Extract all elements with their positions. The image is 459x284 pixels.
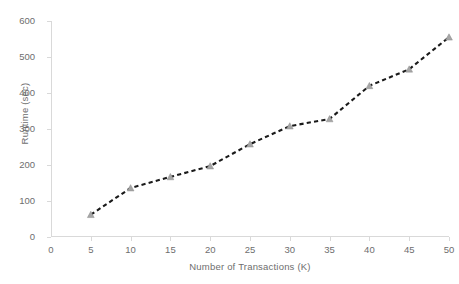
x-axis-title: Number of Transactions (K) (51, 261, 449, 272)
y-tick-mark (47, 237, 51, 238)
x-tick-label: 30 (275, 245, 305, 255)
x-tick-label: 15 (155, 245, 185, 255)
y-tick-label: 200 (5, 160, 35, 170)
x-tick-label: 0 (36, 245, 66, 255)
x-tick-label: 50 (434, 245, 459, 255)
y-tick-label: 100 (5, 196, 35, 206)
x-tick-label: 5 (76, 245, 106, 255)
x-tick-mark (449, 237, 450, 241)
x-tick-label: 25 (235, 245, 265, 255)
x-tick-label: 45 (394, 245, 424, 255)
data-point-marker (446, 34, 453, 40)
x-tick-label: 40 (354, 245, 384, 255)
y-tick-label: 300 (5, 124, 35, 134)
y-tick-label: 0 (5, 232, 35, 242)
x-tick-mark (290, 237, 291, 241)
data-point-marker (286, 123, 293, 129)
x-tick-label: 35 (315, 245, 345, 255)
x-tick-label: 10 (116, 245, 146, 255)
x-tick-mark (210, 237, 211, 241)
x-tick-mark (250, 237, 251, 241)
plot-area: 0100200300400500600 05101520253035404550 (51, 21, 449, 237)
chart-container: Runtime (sec) 0100200300400500600 051015… (0, 0, 459, 284)
series-line (91, 37, 449, 214)
x-tick-mark (131, 237, 132, 241)
x-tick-mark (330, 237, 331, 241)
y-tick-label: 600 (5, 16, 35, 26)
data-series-runtime (51, 21, 449, 237)
y-tick-label: 500 (5, 52, 35, 62)
x-tick-mark (409, 237, 410, 241)
data-point-marker (326, 116, 333, 122)
x-tick-mark (369, 237, 370, 241)
y-axis-title: Runtime (sec) (19, 54, 30, 174)
x-tick-mark (91, 237, 92, 241)
x-tick-label: 20 (195, 245, 225, 255)
y-tick-label: 400 (5, 88, 35, 98)
x-tick-mark (170, 237, 171, 241)
data-point-marker (127, 185, 134, 191)
